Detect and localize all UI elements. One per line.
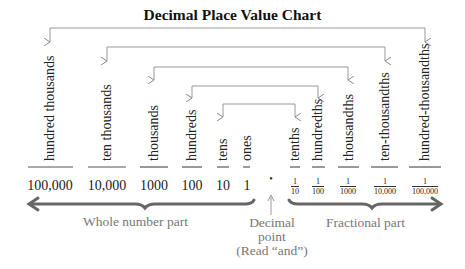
- label-hundreds: hundreds: [184, 110, 200, 161]
- caption-fractional-part: Fractional part: [326, 215, 405, 231]
- fraction-numerator: 1: [340, 177, 356, 187]
- value-ten-thousands: 10,000: [88, 178, 127, 194]
- label-ten-thousands: ten thousands: [99, 84, 115, 161]
- fraction-denominator: 1000: [340, 187, 356, 196]
- fraction-denominator: 100: [312, 187, 324, 196]
- value-ten-thousandths: 1 10,000: [374, 177, 396, 196]
- fraction-denominator: 10,000: [374, 187, 396, 196]
- label-thousandths: thousandths: [341, 94, 357, 161]
- label-hundred-thousands: hundred thousands: [42, 56, 58, 161]
- label-tenths: tenths: [287, 128, 303, 161]
- value-hundredths: 1 100: [312, 177, 324, 196]
- caption-whole-number-part: Whole number part: [83, 214, 188, 230]
- fraction-denominator: 10: [291, 187, 299, 196]
- value-hundreds: 100: [182, 178, 203, 194]
- value-thousandths: 1 1000: [340, 177, 356, 196]
- fraction-numerator: 1: [412, 177, 438, 187]
- fraction-numerator: 1: [312, 177, 324, 187]
- value-hundred-thousands: 100,000: [27, 178, 73, 194]
- fraction-numerator: 1: [291, 177, 299, 187]
- value-tenths: 1 10: [291, 177, 299, 196]
- label-thousands: thousands: [146, 105, 162, 161]
- label-hundred-thousandths: hundred-thousandths: [417, 44, 433, 161]
- value-tens: 10: [216, 178, 230, 194]
- value-thousands: 1000: [140, 178, 168, 194]
- fraction-numerator: 1: [374, 177, 396, 187]
- value-hundred-thousandths: 1 100,000: [412, 177, 438, 196]
- decimal-point: •: [269, 173, 273, 184]
- label-ones: ones: [239, 135, 255, 161]
- label-tens: tens: [215, 138, 231, 161]
- value-ones: 1: [244, 178, 251, 194]
- caption-decimal-line3: (Read “and”): [233, 243, 311, 259]
- label-ten-thousandths: ten-thousandths: [377, 72, 393, 161]
- fraction-denominator: 100,000: [412, 187, 438, 196]
- label-hundredths: hundredths: [310, 99, 326, 161]
